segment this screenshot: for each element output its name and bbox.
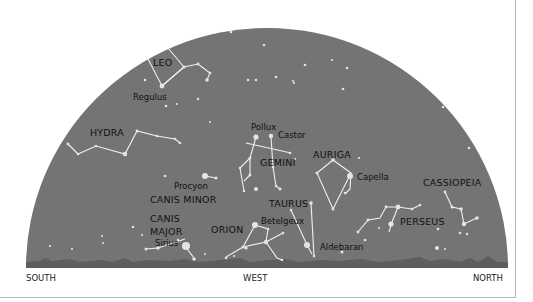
label-pollux: Pollux	[251, 122, 276, 132]
label-aldebaran: Aldebaran	[320, 242, 364, 252]
frame-border-right	[515, 0, 516, 298]
label-betelgeux: Betelgeux	[261, 216, 304, 226]
direction-south: SOUTH	[26, 273, 56, 283]
label-capella: Capella	[357, 172, 389, 182]
label-procyon: Procyon	[174, 181, 208, 191]
label-leo: LEO	[153, 57, 172, 68]
label-canis-major-2: MAJOR	[150, 226, 183, 237]
label-auriga: AURIGA	[313, 149, 351, 160]
label-hydra: HYDRA	[90, 127, 124, 138]
label-sirius: Sirius	[155, 238, 179, 248]
label-cassiopeia: CASSIOPEIA	[423, 177, 482, 188]
label-canis-minor: CANIS MINOR	[150, 194, 217, 205]
direction-west: WEST	[243, 273, 268, 283]
label-canis-major-1: CANIS	[150, 213, 180, 224]
direction-north: NORTH	[473, 273, 503, 283]
label-gemini: GEMINI	[260, 157, 295, 168]
label-perseus: PERSEUS	[400, 216, 445, 227]
label-castor: Castor	[278, 130, 306, 140]
star-map: LEO HYDRA GEMINI AURIGA CANIS MINOR CANI…	[0, 0, 533, 302]
frame-border-bottom	[0, 297, 516, 298]
label-orion: ORION	[211, 224, 243, 235]
label-taurus: TAURUS	[268, 198, 308, 209]
label-regulus: Regulus	[133, 92, 167, 102]
